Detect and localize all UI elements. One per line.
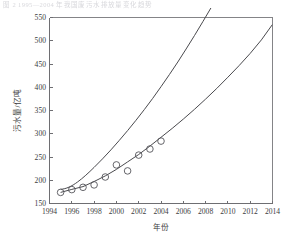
x-tick-label: 2014 <box>265 207 280 216</box>
x-tick-label: 1994 <box>42 207 57 216</box>
figure-page: 图 2 1995—2004 年我国废污水排放量变化趋势 <box>0 0 289 243</box>
data-point-marker <box>158 138 165 145</box>
x-tick-label: 2010 <box>220 207 235 216</box>
fitted-curve <box>61 8 212 189</box>
axis-lines <box>50 18 273 204</box>
y-tick-label: 400 <box>35 83 47 92</box>
y-tick-label: 550 <box>35 13 47 22</box>
scatter-chart: 550 500 450 400 350 300 250 200 150 <box>0 8 289 243</box>
x-tick-label: 1996 <box>64 207 79 216</box>
y-axis-title: 污水量/亿吨 <box>12 89 22 131</box>
x-axis-title: 年份 <box>153 222 169 232</box>
x-tick-label: 2000 <box>109 207 124 216</box>
y-tick-label: 450 <box>35 60 47 69</box>
data-points <box>57 138 164 196</box>
fitted-curve-path <box>61 24 273 192</box>
y-axis-tick-labels: 550 500 450 400 350 300 250 200 150 <box>35 13 47 208</box>
chart-axes <box>50 18 273 204</box>
y-tick-label: 350 <box>35 106 47 115</box>
data-point-marker <box>124 168 131 175</box>
x-tick-label: 2002 <box>131 207 146 216</box>
x-tick-label: 2004 <box>153 207 168 216</box>
x-tick-label: 1998 <box>87 207 102 216</box>
y-tick-label: 500 <box>35 36 47 45</box>
data-point-marker <box>91 182 98 189</box>
x-tick-label: 2012 <box>243 207 258 216</box>
x-tick-label: 2006 <box>176 207 191 216</box>
data-point-marker <box>113 162 120 169</box>
y-tick-label: 200 <box>35 176 47 185</box>
fitted-curve-group <box>61 24 273 192</box>
chart-figure: 550 500 450 400 350 300 250 200 150 <box>0 8 289 243</box>
y-tick-label: 250 <box>35 153 47 162</box>
y-tick-label: 300 <box>35 129 47 138</box>
x-tick-label: 2008 <box>198 207 213 216</box>
x-axis-tick-labels: 1994 1996 1998 2000 2002 2004 2006 2008 … <box>42 207 280 216</box>
